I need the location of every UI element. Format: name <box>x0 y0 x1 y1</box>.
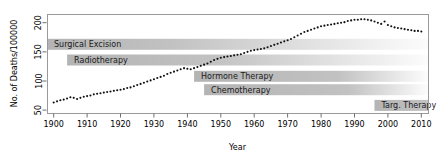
data-point <box>140 83 142 85</box>
data-point <box>243 52 245 54</box>
era-bar-targ-therapy: Targ. Therapy <box>375 100 437 111</box>
data-point <box>116 89 118 91</box>
data-point <box>96 93 98 95</box>
data-point <box>400 28 402 30</box>
era-bar-label: Radiotherapy <box>74 56 128 65</box>
data-point <box>170 72 172 74</box>
data-point <box>79 97 81 99</box>
y-axis-title: No. of Deaths/100000 <box>10 20 19 108</box>
data-point <box>193 67 195 69</box>
data-point <box>230 55 232 57</box>
data-point <box>143 82 145 84</box>
data-point <box>156 77 158 79</box>
data-point <box>323 25 325 27</box>
data-point <box>63 99 65 101</box>
era-bar-label: Hormone Therapy <box>201 72 273 81</box>
data-point <box>183 67 185 69</box>
data-point <box>417 30 419 32</box>
data-point <box>293 36 295 38</box>
data-point <box>233 54 235 56</box>
data-point <box>257 48 259 50</box>
data-point <box>76 98 78 100</box>
data-point <box>59 99 61 101</box>
data-point <box>297 35 299 37</box>
data-point <box>146 81 148 83</box>
data-point <box>130 86 132 88</box>
x-tick-label: 1980 <box>311 120 331 129</box>
era-bar-radiotherapy: Radiotherapy <box>67 55 428 66</box>
data-point <box>176 69 178 71</box>
data-point <box>250 50 252 52</box>
data-point <box>317 26 319 28</box>
data-point <box>370 19 372 21</box>
x-tick-label: 1940 <box>177 120 197 129</box>
y-tick-label: 200 <box>35 15 44 30</box>
data-point <box>103 92 105 94</box>
data-point <box>357 19 359 21</box>
data-point <box>347 20 349 22</box>
data-point <box>253 49 255 51</box>
chart-canvas: Surgical ExcisionRadiotherapyHormone The… <box>0 0 442 162</box>
data-point <box>377 22 379 24</box>
data-point <box>173 71 175 73</box>
data-point <box>186 68 188 70</box>
data-point <box>307 30 309 32</box>
data-point <box>136 84 138 86</box>
era-bar-surgical-excision: Surgical Excision <box>47 39 428 50</box>
data-point <box>394 26 396 28</box>
data-point <box>106 91 108 93</box>
data-point <box>190 68 192 70</box>
x-axis-title: Year <box>228 143 247 152</box>
data-point <box>303 31 305 33</box>
data-point <box>109 90 111 92</box>
data-point <box>333 23 335 25</box>
data-point <box>384 21 386 23</box>
data-point <box>407 29 409 31</box>
data-point <box>153 78 155 80</box>
data-point <box>56 100 58 102</box>
data-point <box>86 95 88 97</box>
data-point <box>260 48 262 50</box>
data-point <box>280 41 282 43</box>
x-tick-label: 1990 <box>344 120 364 129</box>
data-point <box>73 97 75 99</box>
data-point <box>350 19 352 21</box>
data-point <box>210 61 212 63</box>
data-point <box>203 64 205 66</box>
era-bar-chemotherapy: Chemotherapy <box>204 84 428 95</box>
data-point <box>160 76 162 78</box>
era-bar-label: Surgical Excision <box>54 40 121 49</box>
data-point <box>367 19 369 21</box>
data-point <box>126 87 128 89</box>
data-point <box>83 96 85 98</box>
data-point <box>397 27 399 29</box>
data-point <box>390 25 392 27</box>
data-point <box>277 43 279 45</box>
data-point <box>353 19 355 21</box>
data-point <box>226 55 228 57</box>
data-point <box>387 24 389 26</box>
data-point <box>89 94 91 96</box>
x-tick-label: 1970 <box>277 120 297 129</box>
data-point <box>163 75 165 77</box>
data-point <box>113 90 115 92</box>
data-point <box>196 66 198 68</box>
data-point <box>380 23 382 25</box>
data-point <box>270 45 272 47</box>
y-tick-label: 150 <box>35 44 44 59</box>
data-point <box>273 44 275 46</box>
data-point <box>166 73 168 75</box>
data-point <box>263 47 265 49</box>
data-point <box>337 22 339 24</box>
x-tick-label: 1930 <box>144 120 164 129</box>
data-point <box>150 79 152 81</box>
data-point <box>300 33 302 35</box>
era-bars-group: Surgical ExcisionRadiotherapyHormone The… <box>47 39 436 111</box>
data-point <box>240 53 242 55</box>
x-tick-label: 1950 <box>211 120 231 129</box>
data-point <box>220 57 222 59</box>
data-point <box>360 18 362 20</box>
data-point <box>213 59 215 61</box>
data-point <box>283 40 285 42</box>
data-point <box>414 30 416 32</box>
